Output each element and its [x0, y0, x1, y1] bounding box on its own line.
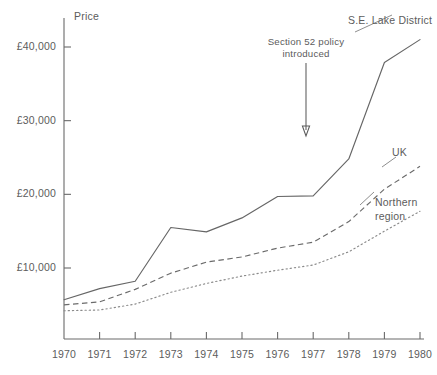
series-label-northern-region-line1: Northern	[375, 196, 417, 208]
annotation-arrow-section-52	[302, 63, 309, 136]
leader-line-uk	[382, 157, 396, 167]
chart-canvas	[0, 0, 437, 375]
x-axis-ticks	[100, 332, 420, 339]
series-label-northern-region-line2: region	[375, 210, 405, 222]
series-line-se-lake-district	[64, 40, 420, 300]
x-tick-label-1980: 1980	[398, 348, 437, 360]
series-label-uk: UK	[392, 146, 407, 158]
annotation-text-line1: Section 52 policy	[247, 36, 365, 49]
annotation-text-line2: introduced	[247, 48, 365, 61]
price-line-chart: Price £40,000 £30,000 £20,000 £10,000 19…	[0, 0, 437, 375]
y-tick-label-40000: £40,000	[0, 40, 56, 52]
y-tick-label-30000: £30,000	[0, 114, 56, 126]
y-tick-label-10000: £10,000	[0, 261, 56, 273]
leader-line-northern-region	[360, 192, 374, 205]
y-axis-ticks	[64, 47, 71, 268]
y-axis-title: Price	[74, 10, 99, 22]
series-label-se-lake-district: S.E. Lake District	[348, 14, 432, 26]
series-line-uk	[64, 166, 420, 304]
y-tick-label-20000: £20,000	[0, 187, 56, 199]
